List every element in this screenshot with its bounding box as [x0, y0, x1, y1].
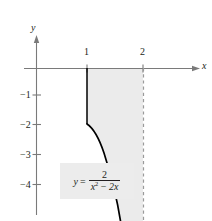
- y-axis-label: y: [31, 23, 35, 33]
- y-tick-label-minus-4: −4: [20, 180, 31, 190]
- y-tick-label-minus-3: −3: [20, 150, 31, 160]
- x-tick-label-1: 1: [84, 47, 89, 57]
- equation-equals-sign: =: [80, 176, 86, 187]
- y-tick-label-minus-1: −1: [20, 90, 31, 100]
- equation-numerator: 2: [99, 170, 110, 181]
- equation-denominator: x2 − 2x: [89, 181, 121, 193]
- equation-lhs: y: [74, 176, 78, 187]
- denominator-exponent: 2: [95, 180, 98, 187]
- denominator-operator: −: [101, 181, 107, 192]
- denominator-term: 2x: [109, 181, 118, 192]
- y-tick-label-minus-2: −2: [20, 120, 31, 130]
- y-axis-arrow-icon: [34, 35, 39, 43]
- function-graph-figure: 1 2 −1 −2 −3 −4 x y y = 2 x2 − 2x: [0, 0, 212, 221]
- x-axis-arrow-icon: [192, 66, 200, 71]
- x-tick-label-2: 2: [140, 47, 145, 57]
- equation-expression: y = 2 x2 − 2x: [74, 170, 121, 193]
- equation-fraction: 2 x2 − 2x: [89, 170, 121, 193]
- x-axis-label: x: [202, 61, 206, 71]
- equation-callout: y = 2 x2 − 2x: [60, 163, 134, 199]
